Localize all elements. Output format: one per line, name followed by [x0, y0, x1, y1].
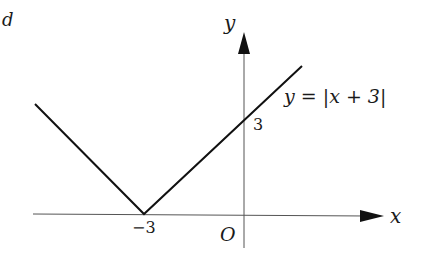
- x-axis-arrow-icon: [360, 210, 384, 222]
- y-tick-label: 3: [253, 115, 263, 134]
- x-axis-label: x: [390, 204, 401, 228]
- graph-canvas: d y x O y = |x + 3| −3 3: [0, 0, 429, 255]
- y-axis-arrow-icon: [238, 32, 250, 54]
- x-tick-label: −3: [132, 218, 156, 237]
- corner-fragment: d: [2, 9, 14, 30]
- equation-label: y = |x + 3|: [283, 85, 386, 108]
- absolute-value-graph: [35, 66, 302, 214]
- x-axis: [33, 214, 368, 216]
- y-axis-label: y: [223, 11, 236, 35]
- origin-label: O: [220, 223, 236, 245]
